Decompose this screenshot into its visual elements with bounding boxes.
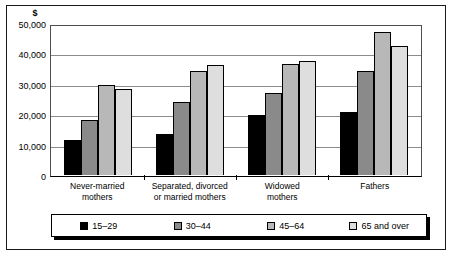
y-axis-tick-label: 40,000 [2,51,46,60]
bar-group [52,27,144,175]
legend-label: 45–64 [279,221,304,231]
x-axis-category-label: Separated, divorced or married mothers [144,181,237,202]
bar [299,61,316,175]
bar-groups [52,27,420,175]
legend-item[interactable]: 30–44 [146,221,240,231]
y-axis-tick-label: 50,000 [2,21,46,30]
bar [173,102,190,175]
bar [340,112,357,175]
x-axis-category-label: Widowed mothers [236,181,329,202]
legend-item[interactable]: 15–29 [52,221,146,231]
legend-label: 30–44 [186,221,211,231]
chart-figure: $ 010,00020,00030,00040,00050,000 Never-… [0,0,452,256]
legend-label: 65 and over [361,221,409,231]
plot-area [50,25,422,177]
y-axis-tick-label: 30,000 [2,82,46,91]
bar [265,93,282,175]
bar [282,64,299,175]
x-axis-category-label: Never-married mothers [51,181,144,202]
x-axis-tick [236,175,237,180]
bar-group [328,27,420,175]
y-axis-tick-label: 0 [2,173,46,182]
x-axis-tick [144,175,145,180]
legend-swatch-icon [80,222,88,230]
x-axis-tick [328,175,329,180]
legend-item[interactable]: 65 and over [333,221,427,231]
bar-group [144,27,236,175]
y-axis-tick-labels: 010,00020,00030,00040,00050,000 [0,25,46,177]
bar [248,115,265,175]
y-axis-unit-label: $ [18,8,52,18]
legend-label: 15–29 [92,221,117,231]
bar [81,120,98,175]
x-axis-category-labels: Never-married mothersSeparated, divorced… [51,181,421,202]
legend-swatch-icon [174,222,182,230]
bar [391,46,408,175]
y-axis-tick-label: 10,000 [2,143,46,152]
plot-area-wrapper [50,25,422,177]
bar [115,89,132,175]
legend-item[interactable]: 45–64 [239,221,333,231]
x-axis-category-label: Fathers [329,181,422,202]
bar-group [236,27,328,175]
legend-swatch-icon [267,222,275,230]
legend-swatch-icon [349,222,357,230]
bar [156,134,173,175]
bar [357,71,374,175]
bar [190,71,207,175]
legend: 15–2930–4445–6465 and over [51,214,427,237]
y-axis-tick-label: 20,000 [2,112,46,121]
bar [207,65,224,175]
bar [374,32,391,175]
bar [98,85,115,175]
bar [64,140,81,175]
